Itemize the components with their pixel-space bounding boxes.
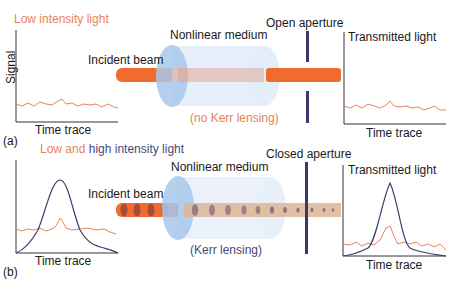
panel-b-transmitted-label: Transmitted light [348,163,436,177]
panel-a-left-axes [16,30,118,122]
panel-b-title-high: high intensity light [89,142,184,156]
panel-a-left-time-trace: Time trace [35,123,91,137]
panel-b-title-low: Low and [40,142,85,156]
panel-b-lensing-note: (Kerr lensing) [190,243,262,257]
panel-a-incident-label: Incident beam [88,53,163,67]
panel-a-medium-label: Nonlinear medium [170,28,267,42]
panel-b-aperture-label: Closed aperture [266,147,351,161]
panel-a-right-time-trace: Time trace [366,126,422,140]
panel-b-label: (b) [3,265,18,279]
panel-a-right-axes [344,32,446,124]
panel-b-left-axes [16,160,118,253]
panel-a-exit-beam [266,68,341,82]
panel-a-lensing-note: (no Kerr lensing) [190,111,279,125]
panel-a-transmitted-label: Transmitted light [348,30,436,44]
panel-a-aperture-label: Open aperture [266,16,343,30]
panel-a-label: (a) [3,134,18,148]
panel-a-nonlinear-medium [156,45,280,107]
panel-b-title: Low and high intensity light [40,142,184,156]
panel-b-medium-label: Nonlinear medium [171,160,268,174]
panel-b-right-time-trace: Time trace [366,258,422,272]
panel-b-incident-label: Incident beam [88,187,163,201]
panel-b-transmitted-beam [184,203,341,217]
panel-b-right-axes [343,165,446,256]
panel-a-title: Low intensity light [14,12,109,26]
panel-b-left-time-trace: Time trace [35,254,91,268]
panel-b-closed-aperture [305,162,308,254]
signal-axis-label: Signal [4,51,18,84]
